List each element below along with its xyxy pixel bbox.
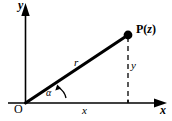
origin-label: O (14, 103, 23, 115)
horizontal-projection-label: x (82, 105, 87, 116)
polar-complex-number-figure: y x O P(z) r α x y (0, 0, 172, 121)
figure-canvas (0, 0, 172, 121)
point-p-suffix: ) (152, 22, 156, 36)
x-axis-label: x (160, 104, 166, 116)
vertical-projection-label: y (131, 60, 136, 71)
point-p-marker (124, 31, 133, 40)
point-p-prefix: P( (136, 22, 147, 36)
point-p-label: P(z) (136, 23, 156, 35)
angle-arc-arrowhead-icon (55, 85, 61, 91)
y-axis-label: y (18, 0, 23, 11)
angle-alpha-label: α (46, 88, 51, 98)
radius-label: r (74, 57, 78, 68)
radius-segment (26, 35, 129, 103)
